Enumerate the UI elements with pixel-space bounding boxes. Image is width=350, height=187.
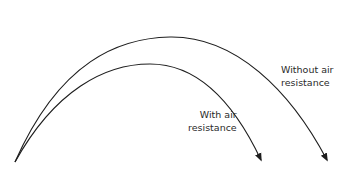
label-with-air-resistance: With air resistance bbox=[188, 108, 237, 134]
trajectory-without-air-resistance bbox=[15, 37, 327, 162]
label-with-line1: With air bbox=[188, 108, 237, 121]
trajectory-diagram bbox=[0, 0, 350, 187]
label-without-line1: Without air bbox=[281, 63, 334, 76]
label-without-line2: resistance bbox=[281, 76, 334, 89]
label-with-line2: resistance bbox=[188, 121, 237, 134]
label-without-air-resistance: Without air resistance bbox=[281, 63, 334, 89]
